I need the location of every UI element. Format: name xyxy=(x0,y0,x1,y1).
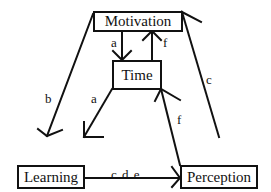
edge-label-time-motivation: f xyxy=(163,36,167,49)
node-time-label: Time xyxy=(121,67,152,84)
node-motivation-label: Motivation xyxy=(105,13,172,30)
node-motivation: Motivation xyxy=(93,11,183,32)
node-learning: Learning xyxy=(17,165,85,189)
node-learning-label: Learning xyxy=(24,169,78,186)
edge-perception-to-time xyxy=(155,89,180,165)
edge-label-perception-time: f xyxy=(177,113,181,126)
edge-motivation-to-learning xyxy=(38,14,93,136)
edge-label-motivation-time: a xyxy=(111,36,117,49)
edge-time-to-learning xyxy=(84,89,112,137)
node-perception-label: Perception xyxy=(187,169,251,186)
edge-perception-to-motivation xyxy=(182,12,219,137)
edge-label-motivation-learning: b xyxy=(45,92,52,105)
edge-label-learning-perception: c d e xyxy=(111,168,141,181)
edge-time-to-motivation xyxy=(143,31,161,60)
node-time: Time xyxy=(112,60,162,90)
diagram-canvas: Motivation Time Learning Perception a f … xyxy=(0,0,271,192)
edge-label-perception-motivation: c xyxy=(206,73,212,86)
edge-label-time-learning: a xyxy=(91,92,97,105)
node-perception: Perception xyxy=(180,165,258,189)
